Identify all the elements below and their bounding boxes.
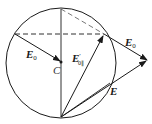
- arrow-e0-to-center: [15, 34, 60, 61]
- label-e0-right: E0: [124, 36, 136, 50]
- label-e0-left: E0: [25, 48, 37, 62]
- label-center-c: C: [53, 64, 61, 76]
- label-e-result: E: [109, 85, 117, 97]
- phasor-diagram: E0 C E′0∥ E0 E: [0, 0, 152, 124]
- label-e-prime: E′0∥: [71, 52, 84, 67]
